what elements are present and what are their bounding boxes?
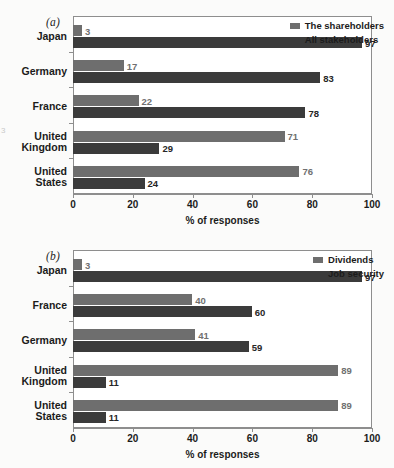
bar-series-1: 17 [73, 60, 124, 71]
bar-value-label: 83 [323, 72, 334, 83]
chart-panel-b: (b) Japan397France4060Germany4159UnitedK… [0, 234, 394, 468]
y-axis-tick [69, 286, 73, 287]
category-label-line: Germany [21, 335, 67, 347]
bar-group: Germany1783 [73, 52, 371, 87]
bar-value-label: 24 [148, 178, 159, 189]
x-axis-tick-label: 20 [127, 433, 138, 444]
bar-value-label: 11 [109, 412, 119, 423]
y-axis-tick [69, 52, 73, 53]
bar-value-label: 3 [85, 259, 90, 270]
x-axis-tick-label: 100 [364, 199, 381, 210]
category-label-line: Kingdom [22, 142, 68, 154]
bar-series-2: 83 [73, 72, 320, 83]
bar-series-2: 78 [73, 107, 305, 118]
x-axis-title-a: % of responses [73, 215, 372, 226]
bar-series-2: 11 [73, 412, 106, 423]
chart-panel-a: (a) Japan397Germany1783France2278UnitedK… [0, 0, 394, 234]
x-axis-tick [133, 428, 134, 432]
bar-value-label: 3 [85, 25, 90, 36]
x-axis-tick [73, 194, 74, 198]
legend-b: DividendsJob security [313, 254, 384, 279]
category-label: Japan [37, 265, 67, 277]
bar-value-label: 78 [308, 107, 319, 118]
bar-group: UnitedKingdom7129 [73, 123, 371, 158]
x-axis-tick-label: 0 [70, 199, 76, 210]
y-axis-tick [69, 87, 73, 88]
legend-swatch-icon [313, 257, 323, 263]
bar-series-1: 40 [73, 294, 192, 305]
legend-swatch-icon [313, 271, 323, 277]
y-axis-tick [69, 392, 73, 393]
legend-item: The shareholders [290, 20, 384, 31]
x-axis-tick [193, 194, 194, 198]
category-label-line: States [34, 177, 67, 189]
panel-label-a: (a) [46, 16, 60, 28]
x-axis-tick-label: 80 [307, 199, 318, 210]
bar-value-label: 76 [302, 166, 313, 177]
bar-group: Germany4159 [73, 321, 371, 356]
x-axis-tick-label: 40 [187, 433, 198, 444]
bar-value-label: 89 [341, 365, 352, 376]
bar-value-label: 89 [341, 400, 352, 411]
x-axis-b [73, 428, 372, 429]
bar-series-1: 3 [73, 259, 82, 270]
y-axis-tick [69, 321, 73, 322]
legend-label: Dividends [328, 254, 373, 265]
x-axis-tick-label: 60 [247, 199, 258, 210]
legend-a: The shareholdersAll stakeholders [290, 20, 384, 45]
category-label-line: Germany [21, 66, 67, 78]
category-label: UnitedKingdom [22, 131, 68, 154]
category-label-line: States [34, 411, 67, 423]
bar-series-1: 89 [73, 400, 338, 411]
category-label-line: France [33, 300, 67, 312]
category-label: Germany [21, 66, 67, 78]
x-axis-tick [252, 194, 253, 198]
bar-series-2: 11 [73, 377, 106, 388]
bar-value-label: 17 [127, 60, 138, 71]
legend-item: All stakeholders [290, 34, 378, 45]
category-label: Germany [21, 335, 67, 347]
category-label: France [33, 101, 67, 113]
bar-value-label: 60 [255, 306, 266, 317]
bar-value-label: 29 [162, 143, 173, 154]
legend-item: Dividends [313, 254, 373, 265]
bar-series-1: 41 [73, 329, 195, 340]
bar-series-2: 24 [73, 178, 145, 189]
bar-value-label: 41 [198, 329, 209, 340]
x-axis-tick-label: 0 [70, 433, 76, 444]
bar-value-label: 71 [288, 131, 299, 142]
bar-value-label: 59 [252, 341, 263, 352]
y-axis-tick [69, 123, 73, 124]
x-axis-tick [312, 194, 313, 198]
category-label: UnitedKingdom [22, 365, 68, 388]
x-axis-tick [73, 428, 74, 432]
category-label-line: Kingdom [22, 376, 68, 388]
bar-group: France2278 [73, 87, 371, 122]
category-label: UnitedStates [34, 400, 67, 423]
x-axis-a [73, 194, 372, 195]
bar-series-1: 89 [73, 365, 338, 376]
legend-item: Job security [313, 268, 384, 279]
x-axis-tick-label: 20 [127, 199, 138, 210]
bar-series-2: 59 [73, 341, 249, 352]
panel-label-b: (b) [46, 250, 60, 262]
category-label: France [33, 300, 67, 312]
x-axis-tick [133, 194, 134, 198]
x-axis-title-b: % of responses [73, 449, 372, 460]
x-axis-tick [193, 428, 194, 432]
x-axis-tick-label: 80 [307, 433, 318, 444]
category-label: Japan [37, 31, 67, 43]
x-axis-tick [312, 428, 313, 432]
y-axis-tick [69, 357, 73, 358]
bar-series-1: 71 [73, 131, 285, 142]
bar-series-1: 3 [73, 25, 82, 36]
x-axis-tick-label: 40 [187, 199, 198, 210]
x-axis-tick [372, 428, 373, 432]
category-label: UnitedStates [34, 166, 67, 189]
legend-label: Job security [328, 268, 384, 279]
bar-series-2: 29 [73, 143, 159, 154]
x-axis-tick [372, 194, 373, 198]
bar-value-label: 22 [142, 95, 153, 106]
category-label-line: Japan [37, 265, 67, 277]
bar-group: UnitedKingdom8911 [73, 357, 371, 392]
